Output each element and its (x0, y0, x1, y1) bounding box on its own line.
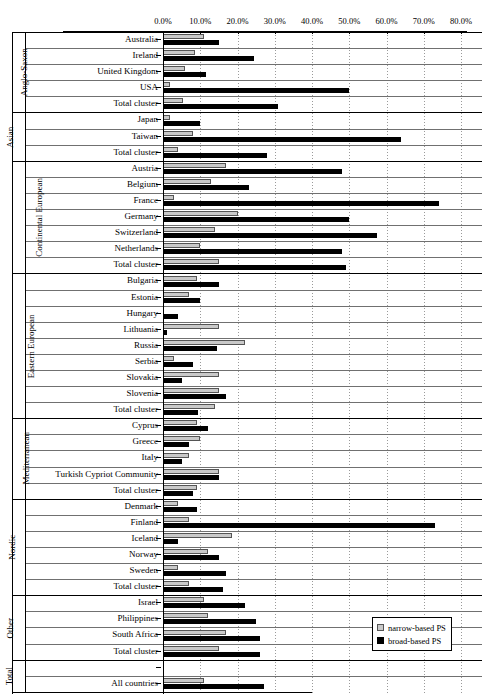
row-tick-mark (156, 119, 161, 120)
bar-broad-based-ps (163, 298, 200, 303)
bar-narrow-based-ps (163, 227, 215, 232)
row-tick-mark (156, 264, 161, 265)
bar-narrow-based-ps (163, 356, 174, 361)
cluster-inner-spine (25, 32, 26, 113)
bar-broad-based-ps (163, 249, 342, 254)
chart-row: Total cluster (0, 579, 482, 595)
bar-broad-based-ps (163, 523, 435, 528)
chart-row: Iceland (0, 531, 482, 547)
chart-row: Ireland (0, 48, 482, 64)
row-label: Total cluster (8, 580, 158, 593)
chart-bottom-rule (12, 692, 312, 693)
bar-narrow-based-ps (163, 66, 185, 71)
chart-legend: narrow-based PSbroad-based PS (372, 617, 452, 651)
bar-broad-based-ps (163, 72, 206, 77)
row-tick-mark (156, 216, 161, 217)
bar-narrow-based-ps (163, 195, 174, 200)
row-label: All countries (8, 677, 158, 690)
bar-narrow-based-ps (163, 388, 219, 393)
cluster-label-text: Eastern European (0, 314, 104, 378)
bar-broad-based-ps (163, 56, 254, 61)
row-tick-mark (156, 377, 161, 378)
row-label: Estonia (8, 291, 158, 304)
row-label: Finland (8, 516, 158, 529)
cluster-inner-spine (25, 596, 26, 660)
bar-narrow-based-ps (163, 630, 226, 635)
bar-narrow-based-ps (163, 613, 208, 618)
row-label: Japan (8, 113, 158, 126)
row-label: Slovenia (8, 387, 158, 400)
bar-broad-based-ps (163, 282, 219, 287)
bar-broad-based-ps (163, 378, 182, 383)
cluster-label: Anglo-Saxon (0, 32, 18, 113)
row-tick-mark (156, 248, 161, 249)
row-label: Total cluster (8, 484, 158, 497)
row-tick-mark (156, 393, 161, 394)
cluster-label-text: Mediterranean (0, 432, 66, 484)
row-tick-mark (156, 168, 161, 169)
row-tick-mark (156, 152, 161, 153)
cluster-divider (12, 660, 482, 661)
chart-row: Total cluster (0, 483, 482, 499)
legend-swatch-narrow (377, 624, 384, 631)
bar-broad-based-ps (163, 491, 193, 496)
bar-broad-based-ps (163, 475, 219, 480)
chart-row: Total cluster (0, 96, 482, 112)
bar-broad-based-ps (163, 265, 346, 270)
row-label: Israel (8, 596, 158, 609)
bar-narrow-based-ps (163, 179, 211, 184)
row-tick-mark (156, 297, 161, 298)
bar-broad-based-ps (163, 88, 349, 93)
bar-broad-based-ps (163, 571, 226, 576)
bar-broad-based-ps (163, 217, 349, 222)
bar-broad-based-ps (163, 619, 256, 624)
bar-broad-based-ps (163, 426, 208, 431)
legend-item: narrow-based PS (377, 621, 446, 634)
chart-row: Estonia (0, 290, 482, 306)
cluster-label-text: Continental European (0, 178, 96, 257)
row-tick-mark (156, 409, 161, 410)
bar-broad-based-ps (163, 121, 200, 126)
row-tick-mark (156, 586, 161, 587)
bar-narrow-based-ps (163, 147, 178, 152)
cluster-inner-spine (25, 161, 26, 274)
bar-narrow-based-ps (163, 50, 195, 55)
bar-narrow-based-ps (163, 82, 170, 87)
bar-narrow-based-ps (163, 340, 245, 345)
bar-broad-based-ps (163, 652, 260, 657)
bar-broad-based-ps (163, 169, 342, 174)
row-tick-mark (156, 651, 161, 652)
bar-broad-based-ps (163, 346, 217, 351)
x-axis-tick-label: 80.0% (450, 16, 472, 27)
cluster-label: Nordic (0, 499, 18, 596)
row-tick-mark (156, 602, 161, 603)
cluster-label-text: Total (0, 667, 25, 685)
row-label: Denmark (8, 500, 158, 513)
bar-broad-based-ps (163, 684, 264, 689)
bar-broad-based-ps (163, 636, 260, 641)
x-axis-tick-label: 10.0% (189, 16, 211, 27)
row-tick-mark (156, 71, 161, 72)
bar-broad-based-ps (163, 539, 178, 544)
row-tick-mark (156, 506, 161, 507)
cluster-label-text: Anglo-Saxon (0, 48, 64, 96)
bar-narrow-based-ps (163, 436, 200, 441)
row-tick-mark (156, 474, 161, 475)
row-label: Total cluster (8, 403, 158, 416)
bar-narrow-based-ps (163, 485, 197, 490)
x-axis-tick-label: 40.0% (301, 16, 323, 27)
cluster-label: Total (0, 660, 18, 692)
row-tick-mark (156, 232, 161, 233)
row-tick-mark (156, 554, 161, 555)
bar-broad-based-ps (163, 394, 226, 399)
row-tick-mark (156, 425, 161, 426)
bar-narrow-based-ps (163, 678, 204, 683)
row-tick-mark (156, 538, 161, 539)
bar-narrow-based-ps (163, 292, 189, 297)
x-axis-tick-label: 50.0% (338, 16, 360, 27)
cluster-inner-spine (25, 113, 26, 161)
row-label: Australia (8, 33, 158, 46)
bar-narrow-based-ps (163, 115, 170, 120)
row-label: Cyprus (8, 419, 158, 432)
